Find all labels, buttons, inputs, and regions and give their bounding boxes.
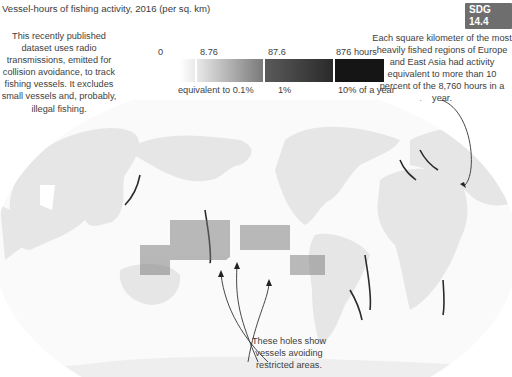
restricted-areas-note: These holes show vessels avoiding restri… [244, 335, 334, 371]
legend-tick-0: 0 [158, 47, 163, 57]
map-subtitle: Vessel-hours of fishing activity, 2016 (… [2, 3, 210, 14]
legend-label-10: 10% of a year [338, 85, 395, 95]
legend: 0 8.76 87.6 876 hours equivalent to 0.1%… [158, 45, 398, 105]
legend-tick-8-76: 8.76 [200, 47, 218, 57]
legend-segment-0 [180, 59, 195, 82]
legend-segment-1 [197, 59, 263, 82]
legend-segment-2 [265, 59, 333, 82]
sdg-badge: SDG 14.4 [465, 3, 512, 29]
legend-tick-876: 876 hours [336, 47, 377, 57]
legend-segment-3 [335, 59, 384, 82]
legend-label-0-1: equivalent to 0.1% [178, 85, 254, 95]
legend-color-bar [180, 59, 384, 82]
legend-label-1: 1% [278, 85, 291, 95]
legend-tick-87-6: 87.6 [268, 47, 286, 57]
